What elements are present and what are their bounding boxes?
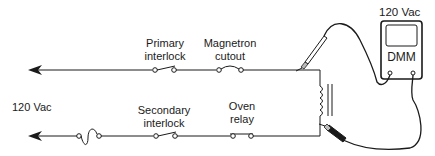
secondary-interlock-switch-symbol bbox=[154, 132, 178, 138]
circuit-diagram bbox=[0, 0, 435, 156]
top-test-lead-wire bbox=[324, 24, 390, 85]
bottom-test-lead-wire bbox=[343, 75, 421, 150]
oven-relay-label: Oven relay bbox=[222, 100, 262, 126]
bottom-probe bbox=[319, 124, 346, 142]
dmm-jack-left bbox=[388, 71, 392, 75]
oven-relay-label-line1: Oven bbox=[222, 100, 262, 113]
top-probe bbox=[296, 36, 327, 71]
primary-interlock-switch-symbol bbox=[153, 66, 177, 72]
meter-reading-label: 120 Vac bbox=[379, 6, 420, 19]
secondary-interlock-label-line2: interlock bbox=[134, 117, 194, 130]
magnetron-cutout-label: Magnetron cutout bbox=[200, 37, 260, 63]
transformer-coil bbox=[320, 86, 323, 116]
fuse-symbol bbox=[77, 129, 102, 144]
primary-interlock-label: Primary interlock bbox=[140, 37, 190, 63]
secondary-interlock-label: Secondary interlock bbox=[134, 104, 194, 130]
source-voltage-label: 120 Vac bbox=[12, 101, 52, 114]
meter-name-label: DMM bbox=[386, 51, 417, 64]
magnetron-cutout-symbol bbox=[217, 66, 244, 72]
primary-interlock-label-line1: Primary bbox=[140, 37, 190, 50]
magnetron-cutout-label-line2: cutout bbox=[200, 50, 260, 63]
oven-relay-label-line2: relay bbox=[222, 113, 262, 126]
dmm-jack-right bbox=[411, 71, 415, 75]
secondary-interlock-label-line1: Secondary bbox=[134, 104, 194, 117]
primary-interlock-label-line2: interlock bbox=[140, 50, 190, 63]
oven-relay-switch-symbol bbox=[230, 134, 253, 139]
magnetron-cutout-label-line1: Magnetron bbox=[200, 37, 260, 50]
